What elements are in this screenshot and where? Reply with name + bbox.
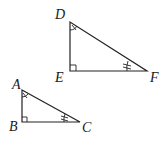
label-b: B xyxy=(9,119,18,134)
triangle-def-outline xyxy=(70,22,147,71)
label-c: C xyxy=(82,120,92,135)
label-a: A xyxy=(11,77,21,92)
label-e: E xyxy=(54,70,64,85)
triangle-def: D E F xyxy=(54,7,159,85)
angle-tick-c-2 xyxy=(61,119,68,121)
triangle-abc-outline xyxy=(22,90,80,122)
angle-arc-c xyxy=(64,114,65,122)
angle-arc-f xyxy=(127,61,128,71)
label-d: D xyxy=(54,7,65,22)
similar-triangles-diagram: D E F A B C xyxy=(0,0,167,146)
label-f: F xyxy=(149,70,159,85)
triangle-abc: A B C xyxy=(9,77,92,135)
right-angle-mark-e xyxy=(70,65,76,71)
right-angle-mark-b xyxy=(22,117,27,122)
